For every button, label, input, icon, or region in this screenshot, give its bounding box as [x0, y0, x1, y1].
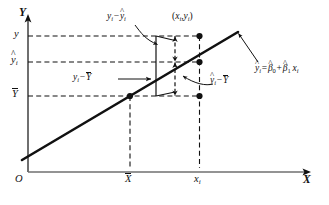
x-tick-label-xbar: X [125, 174, 131, 185]
regression-equation-label: yi=β0+β1 xi [255, 64, 299, 74]
ybar-at-xi-point-marker [196, 93, 202, 99]
total-deviation-annotation: yi−Y [73, 73, 91, 83]
y-tick-label-y: y [14, 29, 19, 40]
y-tick-label-ybar: Y [12, 89, 18, 100]
explained-deviation-annotation: yi−Y [210, 76, 228, 86]
explained-deviation-leader-line [183, 76, 213, 85]
observed-point-label: (xi,yi) [172, 12, 193, 22]
y-axis [25, 14, 32, 172]
centroid-point-marker [127, 93, 133, 99]
residual-annotation: yi−yi [107, 12, 126, 22]
residual-leader-line [135, 25, 158, 45]
x-tick-label-xi: xi [194, 174, 201, 186]
x-axis-label: X [303, 174, 311, 186]
y-tick-label-yhat: yi [11, 55, 18, 67]
y-axis-label: Y [19, 7, 26, 19]
fitted-point-marker [196, 59, 202, 65]
x-axis [28, 169, 311, 176]
total-deviation-bracket [156, 36, 175, 96]
origin-label: O [15, 174, 23, 185]
residual-explained-axis [172, 36, 177, 96]
regression-variation-diagram: Y X O y yi Y X xi yi−yi (xi,yi) yi−Y yi−… [0, 0, 329, 205]
observed-point-marker [196, 33, 202, 39]
diagram-canvas [0, 0, 329, 205]
